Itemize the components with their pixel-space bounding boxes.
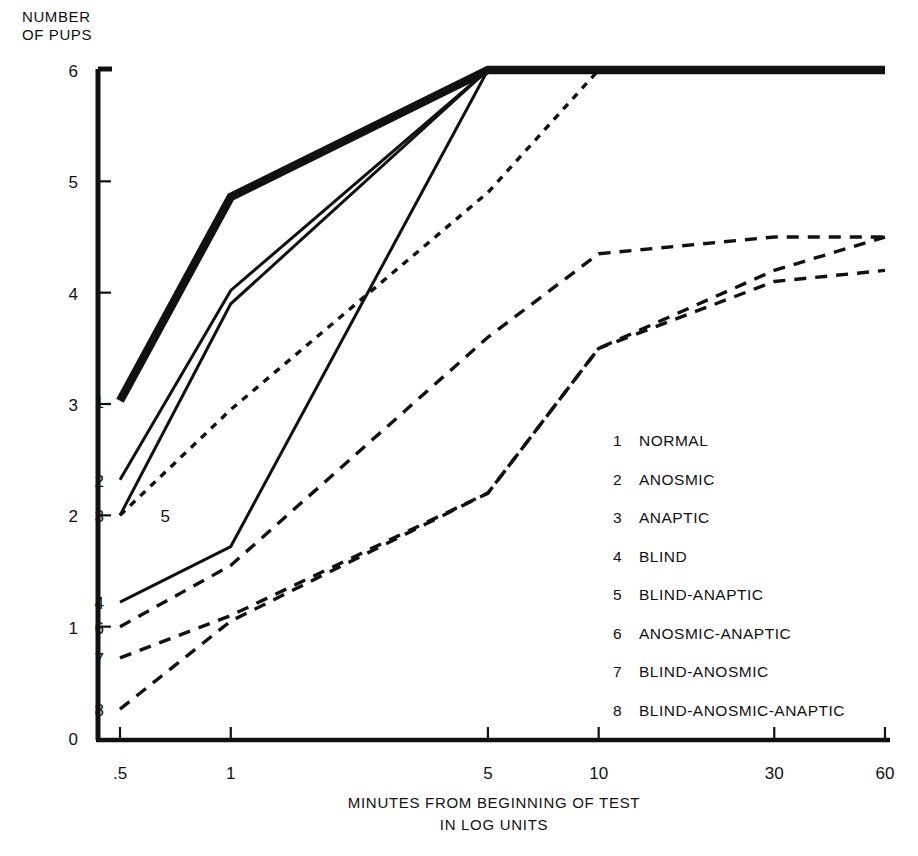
series-line-2	[120, 70, 885, 480]
x-axis-title-line1: MINUTES FROM BEGINNING OF TEST	[348, 794, 640, 811]
legend-label-3: ANAPTIC	[639, 509, 710, 526]
curve-tag-6: 6	[95, 619, 104, 638]
legend-label-6: ANOSMIC-ANAPTIC	[639, 625, 791, 642]
y-tick-label: 5	[69, 173, 78, 192]
chart-figure: NUMBER OF PUPS 0123456 .515103060 123456…	[0, 0, 918, 856]
y-axis-title-line1: NUMBER	[22, 8, 91, 25]
y-tick-group: 0123456	[69, 62, 111, 749]
x-tick-label: 5	[483, 764, 492, 783]
legend-label-4: BLIND	[639, 548, 687, 565]
series-line-1	[120, 70, 885, 401]
series-line-5	[120, 70, 885, 515]
legend-number-1: 1	[613, 432, 622, 449]
y-tick-label: 4	[69, 285, 78, 304]
series-line-8	[120, 270, 885, 709]
legend-number-6: 6	[613, 625, 622, 642]
x-tick-label: 60	[876, 764, 895, 783]
series-group	[120, 70, 885, 709]
legend-label-2: ANOSMIC	[639, 471, 715, 488]
series-line-3	[120, 70, 885, 515]
curve-tag-3: 3	[95, 507, 104, 526]
x-tick-group: .515103060	[113, 727, 895, 783]
legend-number-2: 2	[613, 471, 622, 488]
legend-number-4: 4	[613, 548, 622, 565]
legend: 1NORMAL2ANOSMIC3ANAPTIC4BLIND5BLIND-ANAP…	[613, 432, 845, 719]
x-tick-label: .5	[113, 764, 127, 783]
legend-label-5: BLIND-ANAPTIC	[639, 586, 764, 603]
series-line-4	[120, 70, 885, 602]
x-axis-title-line2: IN LOG UNITS	[440, 816, 548, 833]
legend-number-7: 7	[613, 663, 622, 680]
curve-tag-4: 4	[95, 594, 104, 613]
x-tick-label: 10	[589, 764, 608, 783]
legend-number-5: 5	[613, 586, 622, 603]
x-tick-label: 1	[226, 764, 235, 783]
legend-label-8: BLIND-ANOSMIC-ANAPTIC	[639, 702, 845, 719]
curve-tag-8: 8	[95, 701, 104, 720]
curve-tag-7: 7	[95, 650, 104, 669]
y-tick-label: 6	[69, 62, 78, 81]
line-chart-canvas: NUMBER OF PUPS 0123456 .515103060 123456…	[0, 0, 918, 856]
curve-tag-1: 1	[95, 393, 104, 412]
series-line-6	[120, 237, 885, 627]
curve-tag-2: 2	[95, 472, 104, 491]
y-axis-title-line2: OF PUPS	[22, 26, 92, 43]
y-tick-label: 1	[69, 619, 78, 638]
x-tick-label: 30	[765, 764, 784, 783]
y-tick-label: 2	[69, 507, 78, 526]
legend-number-3: 3	[613, 509, 622, 526]
legend-number-8: 8	[613, 702, 622, 719]
legend-label-1: NORMAL	[639, 432, 708, 449]
y-tick-label: 3	[69, 396, 78, 415]
curve-tag-5: 5	[161, 507, 170, 526]
y-tick-label: 0	[69, 730, 78, 749]
legend-label-7: BLIND-ANOSMIC	[639, 663, 769, 680]
